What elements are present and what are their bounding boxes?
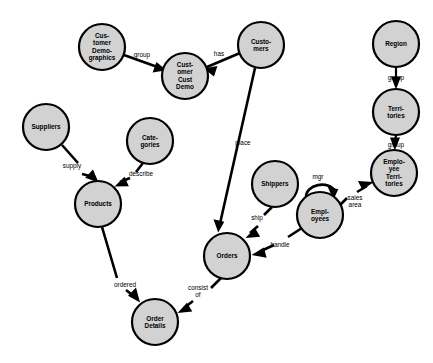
edge-has-customers-to-cust-demo bbox=[204, 53, 241, 76]
er-diagram-canvas: Cus- tomer Demo- graphics Cust- omer Cus… bbox=[0, 0, 433, 363]
node-suppliers[interactable] bbox=[23, 104, 69, 150]
node-customer-demographics[interactable] bbox=[79, 24, 125, 70]
node-employees[interactable] bbox=[297, 192, 343, 238]
edge-ordered-products-to-order-details bbox=[102, 227, 140, 303]
node-customer-cust-demo[interactable] bbox=[162, 53, 208, 99]
node-orders[interactable] bbox=[204, 233, 250, 279]
edge-handle-employees-to-orders bbox=[252, 228, 303, 258]
node-region[interactable] bbox=[373, 21, 419, 67]
node-categories[interactable] bbox=[127, 118, 173, 164]
edge-consist-of-orders-to-order-details bbox=[178, 278, 222, 313]
node-order-details[interactable] bbox=[132, 299, 178, 345]
node-shippers[interactable] bbox=[252, 161, 298, 207]
node-employee-territories[interactable] bbox=[371, 150, 417, 196]
edge-describe-categories-to-products bbox=[115, 163, 144, 187]
node-products[interactable] bbox=[75, 181, 121, 227]
edge-group-customer-demographics-to-cust-demo bbox=[124, 55, 167, 72]
edge-sales-area-employees-to-employee-territories bbox=[339, 181, 374, 206]
edge-group-territories-to-employee-territories bbox=[390, 135, 400, 151]
edge-ship-shippers-to-orders bbox=[246, 207, 273, 238]
edge-supply-suppliers-to-products bbox=[62, 145, 99, 183]
node-customers[interactable] bbox=[238, 22, 284, 68]
er-diagram-graph bbox=[0, 0, 433, 363]
edge-place-customers-to-orders bbox=[214, 68, 256, 233]
node-territories[interactable] bbox=[373, 89, 419, 135]
edge-group-region-to-territories bbox=[391, 67, 401, 90]
